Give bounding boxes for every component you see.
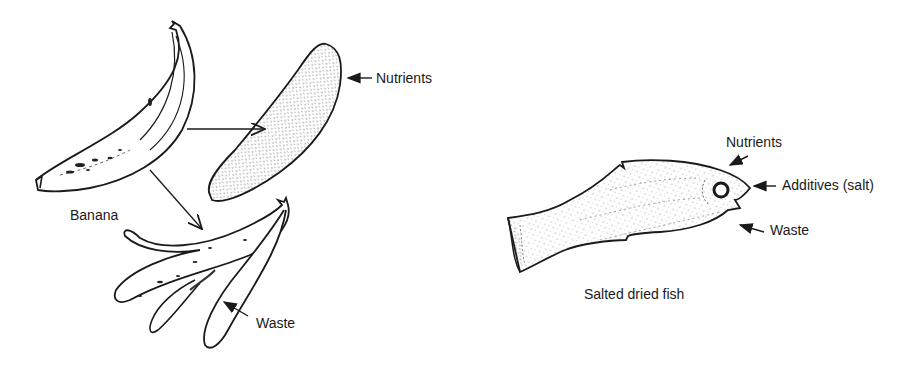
peeled-banana-illustration: [209, 44, 341, 201]
label-fish-nutrients: Nutrients: [726, 135, 782, 149]
whole-banana-illustration: [36, 21, 195, 191]
label-banana-waste: Waste: [256, 316, 295, 330]
waste-pointer-fish: [740, 225, 764, 232]
nutrients-pointer-fish: [730, 156, 748, 165]
arrow-to-waste: [150, 170, 202, 229]
label-fish-waste: Waste: [770, 223, 809, 237]
label-banana-nutrients: Nutrients: [376, 71, 432, 85]
label-fish-additives: Additives (salt): [782, 178, 874, 192]
label-salted-dried-fish: Salted dried fish: [584, 287, 684, 301]
label-banana: Banana: [70, 208, 118, 222]
dried-fish-illustration: [508, 160, 750, 272]
